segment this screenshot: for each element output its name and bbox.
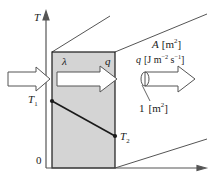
temp-cold-marker [113, 134, 117, 138]
incoming-heat-arrow [8, 67, 50, 91]
temp-cold-label: T2 [120, 131, 130, 145]
flux-units-label: q[J m−2 s−1] [136, 54, 184, 65]
unit-area-flux-arrow [145, 66, 195, 92]
vertical-axis-label: T [34, 12, 40, 23]
unit-area-label: 1[m2] [139, 102, 168, 114]
temp-hot-subscript: 1 [34, 100, 37, 107]
unit-area-number: 1 [139, 102, 145, 114]
conducting-slab [52, 52, 115, 168]
slab-flux-label: q [105, 56, 111, 67]
vertical-axis-arrowhead [43, 11, 49, 20]
vertical-axis-group [43, 11, 49, 168]
thermal-conduction-figure: T 0 λ q T1 T2 A[m2] q[J m−2 s−1] 1[m2] [0, 0, 214, 182]
horizontal-axis-arrowhead [197, 166, 206, 171]
figure-drawing [0, 0, 214, 182]
area-symbol: A [152, 38, 159, 50]
flux-units-close: ] [181, 54, 184, 65]
area-label: A[m2] [152, 38, 181, 50]
unit-area-leader-line [142, 85, 150, 101]
origin-label: 0 [36, 155, 42, 166]
unit-area-units-close: ] [164, 102, 168, 114]
flux-units-open: [J m [144, 54, 162, 65]
temp-cold-subscript: 2 [126, 137, 129, 144]
thermal-conductivity-label: λ [62, 56, 67, 67]
unit-area-units-open: [m [149, 102, 161, 114]
perspective-line-top-left [52, 16, 110, 52]
temp-hot-marker [50, 99, 54, 103]
flux-symbol: q [136, 54, 141, 65]
area-units-open: [m [162, 38, 174, 50]
temp-hot-label: T1 [28, 94, 38, 108]
area-units-close: ] [177, 38, 181, 50]
